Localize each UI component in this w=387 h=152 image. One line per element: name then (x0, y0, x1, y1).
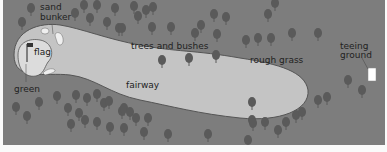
label-fairway: fairway (126, 80, 160, 90)
label-ground: ground (340, 50, 372, 60)
label-green: green (14, 84, 40, 94)
label-sand: sand (40, 2, 62, 12)
label-bunker: bunker (40, 12, 72, 22)
flag-icon (27, 43, 33, 47)
label-rough-grass: rough grass (250, 55, 304, 65)
golf-hole-diagram: sand bunker flag green trees and bushes … (0, 0, 387, 152)
teeing-ground (368, 68, 376, 81)
tree-icon (244, 135, 252, 145)
label-trees-and-bushes: trees and bushes (131, 41, 209, 51)
label-flag: flag (34, 47, 51, 57)
sand-bunker (41, 28, 49, 34)
